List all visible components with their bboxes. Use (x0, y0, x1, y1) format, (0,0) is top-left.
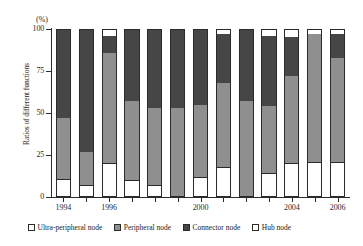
x-tick-mark (178, 198, 179, 202)
legend-label: Connector node (193, 223, 241, 232)
legend-swatch-icon (183, 224, 190, 231)
bar-segment-connector (193, 29, 208, 105)
y-tick-mark (46, 155, 51, 156)
bar-segment-periph (261, 106, 276, 173)
bar-2006[interactable] (330, 29, 345, 197)
bar-segment-periph (79, 152, 94, 186)
x-tick-mark (63, 198, 64, 202)
x-tick-mark (132, 198, 133, 202)
bar-segment-connector (102, 36, 117, 53)
bar-segment-hub (284, 29, 299, 37)
bar-segment-ultra (79, 185, 94, 197)
bar-segment-periph (193, 105, 208, 177)
y-tick-label: 75 (4, 67, 44, 75)
x-tick-mark (292, 198, 293, 202)
y-tick-mark (46, 197, 51, 198)
y-tick-mark (46, 71, 51, 72)
bar-segment-periph (147, 108, 162, 185)
bar-segment-ultra (124, 180, 139, 197)
bar-segment-hub (102, 29, 117, 36)
bar-segment-hub (261, 29, 276, 36)
bar-segment-ultra (147, 185, 162, 197)
x-tick-label: 2000 (193, 203, 209, 212)
bar-1995[interactable] (79, 29, 94, 197)
x-tick-label: 2006 (330, 203, 346, 212)
bar-segment-periph (307, 34, 322, 162)
bar-segment-connector (239, 29, 254, 101)
x-tick-mark (86, 198, 87, 202)
legend-label: Hub node (262, 223, 291, 232)
x-tick-label: 2004 (284, 203, 300, 212)
legend-label: Peripheral node (124, 223, 171, 232)
y-tick-label: 0 (4, 193, 44, 201)
bar-segment-ultra (102, 163, 117, 197)
bar-segment-ultra (330, 162, 345, 197)
bar-segment-connector (284, 37, 299, 76)
bar-segment-periph (239, 101, 254, 197)
bar-segment-ultra (56, 179, 71, 197)
x-tick-mark (315, 198, 316, 202)
plot-area (52, 29, 349, 197)
bar-segment-ultra (284, 163, 299, 197)
y-tick-label: 100 (4, 25, 44, 33)
x-tick-mark (269, 198, 270, 202)
x-tick-mark (155, 198, 156, 202)
bar-segment-ultra (261, 173, 276, 197)
bar-1994[interactable] (56, 29, 71, 197)
x-tick-label: 1996 (101, 203, 117, 212)
x-tick-mark (246, 198, 247, 202)
bar-2004[interactable] (284, 29, 299, 197)
y-tick-mark (46, 29, 51, 30)
bar-segment-connector (170, 29, 185, 108)
bar-segment-periph (56, 118, 71, 178)
legend-swatch-icon (252, 224, 259, 231)
bar-2005[interactable] (307, 29, 322, 197)
bar-segment-periph (102, 53, 117, 164)
bar-2002[interactable] (239, 29, 254, 197)
y-tick-mark (46, 113, 51, 114)
legend-swatch-icon (114, 224, 121, 231)
bar-segment-periph (124, 101, 139, 180)
bar-segment-periph (330, 58, 345, 162)
bar-segment-ultra (216, 167, 231, 197)
bar-segment-connector (330, 34, 345, 58)
x-tick-mark (109, 198, 110, 202)
bar-segment-connector (56, 29, 71, 118)
bar-segment-ultra (193, 177, 208, 197)
y-tick-label: 50 (4, 109, 44, 117)
bar-segment-connector (124, 29, 139, 101)
bar-1996[interactable] (102, 29, 117, 197)
y-axis-unit-label: (%) (36, 15, 48, 24)
x-tick-mark (223, 198, 224, 202)
bar-segment-periph (216, 83, 231, 167)
bar-segment-periph (284, 76, 299, 163)
y-tick-label: 25 (4, 151, 44, 159)
x-tick-mark (201, 198, 202, 202)
bar-2000[interactable] (193, 29, 208, 197)
legend-item-peripheral-node[interactable]: Peripheral node (114, 223, 171, 232)
legend-item-hub-node[interactable]: Hub node (252, 223, 291, 232)
bar-segment-connector (216, 34, 231, 83)
bar-1997[interactable] (124, 29, 139, 197)
chart-figure: (%) Ratios of different functions 025507… (0, 0, 363, 246)
bar-1999[interactable] (170, 29, 185, 197)
legend-item-connector-node[interactable]: Connector node (183, 223, 240, 232)
legend-swatch-icon (28, 224, 35, 231)
bar-segment-connector (79, 29, 94, 152)
bar-segment-periph (170, 108, 185, 197)
bar-1998[interactable] (147, 29, 162, 197)
bar-segment-connector (147, 29, 162, 108)
x-tick-label: 1994 (56, 203, 72, 212)
chart-legend: Ultra-peripheral nodePeripheral nodeConn… (28, 223, 291, 232)
x-tick-mark (338, 198, 339, 202)
legend-item-ultra-peripheral-node[interactable]: Ultra-peripheral node (28, 223, 102, 232)
bar-segment-ultra (307, 162, 322, 197)
bar-segment-connector (261, 36, 276, 107)
bar-2003[interactable] (261, 29, 276, 197)
legend-label: Ultra-peripheral node (38, 223, 103, 232)
bar-2001[interactable] (216, 29, 231, 197)
